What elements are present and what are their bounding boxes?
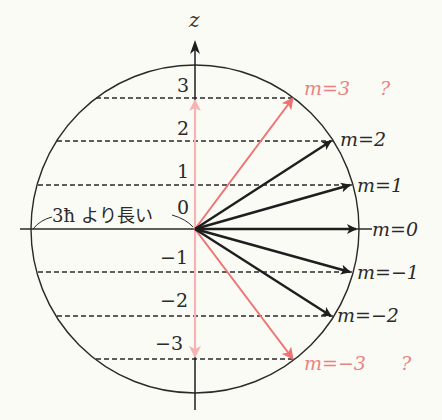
label-mneg3-question: ? xyxy=(401,352,412,374)
vector-mneg1 xyxy=(195,229,350,272)
label-m0: m=0 xyxy=(372,218,418,240)
tick-neg3: −3 xyxy=(155,332,183,354)
label-m3-question: ? xyxy=(380,77,391,99)
tick-neg2: −2 xyxy=(160,289,188,311)
tick-3: 3 xyxy=(177,74,189,96)
tick-neg1: −1 xyxy=(160,246,188,268)
z-tick-labels: 3 2 1 0 −1 −2 −3 xyxy=(155,74,189,354)
tick-2: 2 xyxy=(177,117,189,139)
tick-0: 0 xyxy=(177,196,189,218)
note-leader-left xyxy=(33,217,52,229)
tick-1: 1 xyxy=(177,160,189,182)
longer-than-3hbar-note: 3ħ より長い xyxy=(52,205,153,226)
label-mneg1: m=−1 xyxy=(357,261,419,283)
z-axis-label: z xyxy=(188,8,200,32)
label-m3: m=3 xyxy=(304,77,350,99)
vector-m1 xyxy=(195,185,350,229)
label-m3-text: m=3 xyxy=(304,77,350,99)
label-mneg3: m=−3 xyxy=(304,352,366,374)
vector-mneg3 xyxy=(195,229,293,359)
label-m1: m=1 xyxy=(357,174,403,196)
label-m2: m=2 xyxy=(340,128,386,150)
label-mneg2: m=−2 xyxy=(337,304,399,326)
vector-m3 xyxy=(195,98,293,229)
angular-momentum-quantization-diagram: z 3 2 1 0 −1 −2 −3 3ħ より長い m=3 ? m=2 m=1… xyxy=(0,0,442,420)
